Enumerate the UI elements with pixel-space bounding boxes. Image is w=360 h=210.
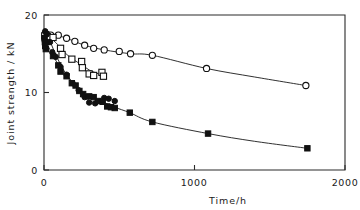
y-tick-label-20: 20 — [25, 10, 38, 21]
data-point — [112, 98, 117, 103]
data-point — [203, 65, 209, 71]
axis-ticks — [44, 15, 345, 170]
data-point — [149, 52, 155, 58]
data-point — [106, 96, 111, 101]
x-tick-label-2000: 2000 — [332, 177, 359, 188]
data-point — [303, 82, 309, 88]
data-point — [100, 73, 106, 79]
data-point — [59, 51, 65, 57]
data-point — [43, 46, 48, 51]
data-point — [127, 51, 133, 57]
y-tick-label-0: 0 — [31, 165, 38, 176]
data-point — [80, 91, 85, 96]
data-point — [72, 38, 78, 44]
y-tick-label-10: 10 — [25, 87, 38, 98]
data-point — [58, 69, 63, 74]
fit-curves-layer — [45, 31, 308, 148]
data-point — [79, 65, 85, 71]
data-point — [56, 63, 61, 68]
chart-figure: 20 10 0 0 1000 2000 Time/h Joint strengt… — [0, 0, 360, 210]
data-point — [101, 47, 107, 53]
data-point — [79, 58, 85, 64]
joint-strength-vs-time-chart: 20 10 0 0 1000 2000 Time/h Joint strengt… — [0, 0, 360, 210]
data-point — [91, 45, 97, 51]
data-point — [150, 119, 155, 124]
data-point — [127, 110, 132, 115]
data-point — [305, 146, 310, 151]
x-tick-label-1000: 1000 — [181, 177, 208, 188]
data-point — [116, 48, 122, 54]
data-point — [50, 53, 55, 58]
x-axis-title: Time/h — [208, 195, 247, 206]
y-axis-title: Joint strength / kN — [5, 42, 16, 146]
x-tick-label-0: 0 — [41, 177, 48, 188]
series-filled-square — [42, 36, 310, 151]
data-point — [69, 56, 75, 62]
data-point — [64, 74, 69, 79]
data-point — [91, 72, 97, 78]
data-point — [205, 131, 210, 136]
data-point — [73, 83, 78, 88]
data-point — [57, 45, 63, 51]
plot-frame — [44, 15, 345, 170]
data-point — [112, 105, 117, 110]
data-point — [86, 100, 91, 105]
data-point — [63, 35, 69, 41]
data-point — [82, 42, 88, 48]
data-points-layer — [42, 29, 310, 151]
